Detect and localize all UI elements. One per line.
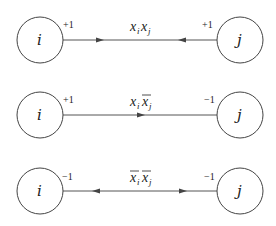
- edge-label: x i x j: [129, 170, 152, 187]
- node-i-label: i: [37, 31, 42, 49]
- arrow-right-icon: [96, 38, 104, 43]
- diagram-canvas: i j +1 +1 x i x j i j +1 −1 x i x j: [0, 0, 276, 226]
- arrow-right-icon: [179, 189, 187, 194]
- left-weight: −1: [62, 171, 73, 182]
- svg-text:x: x: [141, 170, 149, 185]
- node-i-label: i: [37, 182, 42, 200]
- svg-text:x: x: [140, 19, 148, 34]
- svg-text:j: j: [147, 26, 151, 36]
- left-weight: +1: [63, 94, 74, 105]
- arrow-right-icon: [137, 113, 145, 118]
- svg-text:i: i: [137, 101, 140, 111]
- svg-text:j: j: [148, 177, 152, 187]
- edge-label: x i x j: [129, 19, 151, 36]
- right-weight: +1: [202, 19, 213, 30]
- edge-label: x i x j: [129, 94, 152, 111]
- svg-text:x: x: [141, 94, 149, 109]
- arrow-left-icon: [92, 189, 100, 194]
- svg-text:x: x: [129, 94, 137, 109]
- left-weight: +1: [63, 19, 74, 30]
- edge-row-1: i j +1 +1 x i x j: [17, 17, 263, 63]
- svg-text:i: i: [137, 26, 140, 36]
- right-weight: −1: [204, 171, 215, 182]
- svg-text:x: x: [129, 19, 137, 34]
- edge-row-2: i j +1 −1 x i x j: [17, 92, 263, 138]
- svg-text:x: x: [129, 170, 137, 185]
- svg-text:i: i: [137, 177, 140, 187]
- edge-row-3: i j −1 −1 x i x j: [17, 168, 263, 214]
- right-weight: −1: [204, 94, 215, 105]
- svg-text:j: j: [148, 101, 152, 111]
- arrow-left-icon: [178, 38, 186, 43]
- node-i-label: i: [37, 106, 42, 124]
